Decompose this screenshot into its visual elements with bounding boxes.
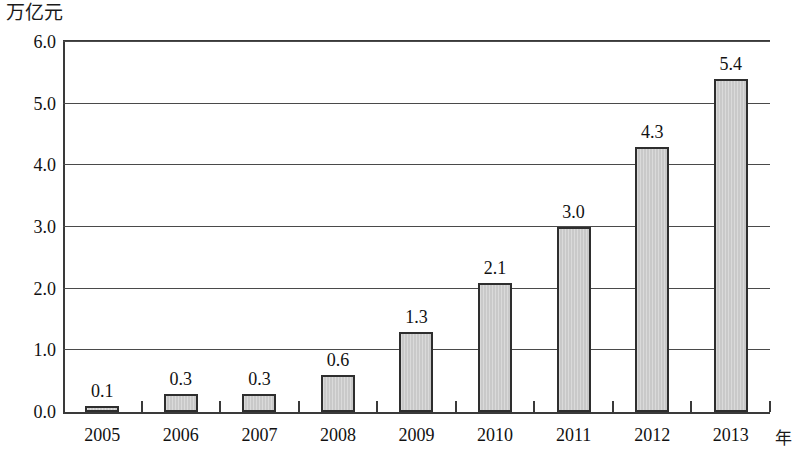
y-tick-label: 1.0 [2,341,56,359]
bar[interactable] [85,406,119,412]
bar[interactable] [478,283,512,413]
bar-value-label: 2.1 [484,258,507,278]
bar-group: 2.1 [456,40,535,412]
bar-value-label: 4.3 [641,122,664,142]
bar-value-label: 1.3 [405,307,428,327]
bar[interactable] [164,394,198,413]
bar-chart: 万亿元 6.0 5.0 4.0 3.0 2.0 1.0 0.0 0.10.30.… [0,0,801,459]
x-axis-label: 2009 [377,424,456,446]
bar[interactable] [399,332,433,412]
plot-area: 0.10.30.30.61.32.13.04.35.4 [63,40,770,414]
bar-value-label: 0.1 [91,381,114,401]
y-tick-label: 5.0 [2,95,56,113]
y-tick-label: 6.0 [2,33,56,51]
bar[interactable] [242,394,276,413]
y-tick-label: 4.0 [2,156,56,174]
bar-value-label: 0.3 [170,369,193,389]
x-axis-label: 2012 [613,424,692,446]
x-axis-label: 2007 [220,424,299,446]
bar-group: 0.3 [220,40,299,412]
x-axis-label: 2006 [142,424,221,446]
bar[interactable] [557,227,591,412]
bar-value-label: 3.0 [562,202,585,222]
x-axis-label: 2010 [456,424,535,446]
x-axis-label: 2013 [691,424,770,446]
bar[interactable] [635,147,669,412]
bar-group: 0.6 [299,40,378,412]
y-axis-tick-labels: 6.0 5.0 4.0 3.0 2.0 1.0 0.0 [0,40,56,414]
bar-group: 5.4 [691,40,770,412]
y-tick-label: 2.0 [2,280,56,298]
x-axis-category-labels: 200520062007200820092010201120122013 [63,424,770,450]
y-axis-title: 万亿元 [6,0,63,24]
x-axis-label: 2005 [63,424,142,446]
x-axis-label: 2011 [534,424,613,446]
bar-value-label: 5.4 [719,54,742,74]
bar-group: 1.3 [377,40,456,412]
x-axis-label: 2008 [299,424,378,446]
bar-series: 0.10.30.30.61.32.13.04.35.4 [63,40,770,414]
bar-group: 3.0 [534,40,613,412]
y-tick-label: 0.0 [2,403,56,421]
bar-value-label: 0.6 [327,350,350,370]
bar-value-label: 0.3 [248,369,271,389]
bar-group: 0.1 [63,40,142,412]
x-axis-title: 年 [775,428,792,448]
y-tick-label: 3.0 [2,218,56,236]
bar-group: 0.3 [142,40,221,412]
bar[interactable] [321,375,355,412]
bar[interactable] [714,79,748,412]
bar-group: 4.3 [613,40,692,412]
